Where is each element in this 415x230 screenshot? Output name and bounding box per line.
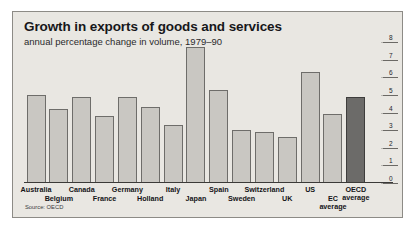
bar-us <box>301 72 320 183</box>
bar-italy <box>164 125 183 183</box>
bar-switzerland <box>255 132 274 183</box>
y-axis-label: 4 <box>389 105 393 112</box>
y-axis-tick <box>381 148 398 149</box>
bar-australia <box>27 95 46 183</box>
chart-panel: Growth in exports of goods and services … <box>12 11 403 218</box>
bar-ec-average <box>323 114 342 183</box>
y-axis-label: 7 <box>389 52 393 59</box>
bar-slot <box>49 42 69 183</box>
bar-slot <box>72 42 92 183</box>
y-axis-label: 8 <box>389 34 393 41</box>
plot-area <box>26 42 366 183</box>
bar-slot <box>186 42 206 183</box>
bar-slot <box>346 42 366 183</box>
y-axis-tick <box>381 130 398 131</box>
y-axis-label: 3 <box>389 122 393 129</box>
category-label-spain: Spain <box>209 186 229 194</box>
axis-baseline <box>24 182 393 183</box>
bar-slot <box>117 42 137 183</box>
chart-title: Growth in exports of goods and services <box>24 19 354 34</box>
bar-slot <box>209 42 229 183</box>
bar-canada <box>72 97 91 183</box>
bar-uk <box>278 137 297 183</box>
bar-japan <box>186 47 205 183</box>
y-axis-tick <box>381 42 398 43</box>
category-labels: AustraliaBelgiumCanadaFranceGermanyHolla… <box>26 186 371 214</box>
bar-slot <box>254 42 274 183</box>
bar-holland <box>141 107 160 183</box>
y-axis-tick <box>381 165 398 166</box>
category-label-oecd-average: OECDaverage <box>342 186 369 203</box>
y-axis-label: 5 <box>389 87 393 94</box>
category-label-canada: Canada <box>69 186 95 194</box>
y-axis-label: 0 <box>389 175 393 182</box>
bar-slot <box>300 42 320 183</box>
category-label-holland: Holland <box>137 195 163 203</box>
chart-page: Growth in exports of goods and services … <box>0 0 415 230</box>
y-axis-tick <box>381 77 398 78</box>
bar-series <box>26 42 366 183</box>
bar-slot <box>232 42 252 183</box>
y-axis-label: 6 <box>389 69 393 76</box>
bar-belgium <box>49 109 68 183</box>
y-axis-tick <box>381 95 398 96</box>
category-label-france: France <box>93 195 117 203</box>
bar-slot <box>95 42 115 183</box>
category-label-italy: Italy <box>166 186 180 194</box>
y-axis-tick <box>381 183 398 184</box>
y-axis: 012345678 <box>381 42 405 184</box>
category-label-switzerland: Switzerland <box>244 186 284 194</box>
category-label-belgium: Belgium <box>45 195 73 203</box>
bar-slot <box>163 42 183 183</box>
bar-france <box>95 116 114 183</box>
y-axis-label: 1 <box>389 157 393 164</box>
bar-slot <box>323 42 343 183</box>
bar-sweden <box>232 130 251 183</box>
bar-slot <box>277 42 297 183</box>
bar-slot <box>140 42 160 183</box>
category-label-uk: UK <box>282 195 292 203</box>
bar-spain <box>209 90 228 183</box>
bar-germany <box>118 97 137 183</box>
source-note: Source: OECD <box>25 204 63 211</box>
y-axis-tick <box>381 60 398 61</box>
y-axis-label: 2 <box>389 140 393 147</box>
category-label-sweden: Sweden <box>228 195 255 203</box>
y-axis-tick <box>381 113 398 114</box>
category-label-japan: Japan <box>186 195 207 203</box>
bar-slot <box>26 42 46 183</box>
category-label-us: US <box>305 186 315 194</box>
bar-oecd-average <box>346 97 365 183</box>
